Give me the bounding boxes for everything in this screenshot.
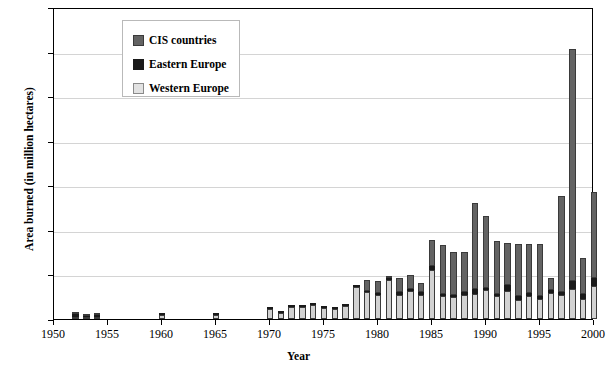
bar: [515, 244, 521, 319]
gridline: [54, 187, 592, 188]
bar: [526, 244, 532, 319]
bar-segment-western-europe: [396, 295, 402, 320]
plot-area: CIS countries Eastern Europe Western Eur…: [53, 8, 593, 320]
gridline: [54, 143, 592, 144]
bar-segment-eastern-europe: [353, 285, 359, 287]
bar-segment-western-europe: [558, 295, 564, 320]
x-tick-label: 1990: [455, 328, 515, 340]
bar-segment-western-europe: [472, 294, 478, 319]
cis-swatch-icon: [133, 35, 144, 46]
x-tick-mark: [485, 320, 486, 325]
bar-segment-cis: [364, 280, 370, 291]
bar-segment-cis: [72, 312, 78, 314]
bar-segment-eastern-europe: [278, 311, 284, 313]
bar-segment-eastern-europe: [375, 293, 381, 295]
bar: [537, 244, 543, 319]
bar-segment-eastern-europe: [213, 313, 219, 315]
bar-segment-eastern-europe: [537, 296, 543, 299]
bar-segment-western-europe: [310, 305, 316, 319]
bar: [591, 192, 597, 319]
bar-segment-eastern-europe: [526, 293, 532, 296]
bar-segment-cis: [461, 252, 467, 292]
bar-segment-eastern-europe: [94, 315, 100, 317]
bar-segment-eastern-europe: [310, 303, 316, 305]
x-tick-label: 1975: [293, 328, 353, 340]
bar-segment-cis: [483, 216, 489, 288]
x-tick-label: 1980: [347, 328, 407, 340]
bar-segment-cis: [429, 240, 435, 267]
bar: [94, 314, 100, 319]
x-axis-title: Year: [0, 350, 597, 362]
x-tick-mark: [107, 320, 108, 325]
bar: [418, 283, 424, 319]
x-tick-label: 1955: [77, 328, 137, 340]
bar-segment-cis: [558, 196, 564, 292]
bar-segment-western-europe: [364, 292, 370, 319]
bar-segment-cis: [580, 258, 586, 294]
bar: [267, 308, 273, 319]
x-tick-label: 1965: [185, 328, 245, 340]
bar-segment-eastern-europe: [429, 266, 435, 270]
bar-segment-western-europe: [440, 296, 446, 319]
bar-segment-western-europe: [450, 297, 456, 319]
x-tick-mark: [269, 320, 270, 325]
legend-label-eastern-europe: Eastern Europe: [149, 58, 226, 70]
bar-segment-eastern-europe: [386, 278, 392, 280]
bar: [569, 49, 575, 319]
bar-segment-western-europe: [515, 300, 521, 319]
bar-segment-eastern-europe: [504, 285, 510, 291]
bar-segment-western-europe: [418, 295, 424, 320]
bar-segment-western-europe: [461, 295, 467, 320]
bar: [159, 315, 165, 319]
bar-segment-western-europe: [375, 295, 381, 319]
bar: [429, 240, 435, 319]
bar-segment-western-europe: [494, 296, 500, 319]
bar-segment-eastern-europe: [332, 307, 338, 309]
bar: [472, 203, 478, 319]
western-europe-swatch-icon: [133, 83, 144, 94]
bar: [450, 252, 456, 319]
bar-segment-western-europe: [591, 286, 597, 319]
bar: [72, 313, 78, 319]
bar: [310, 304, 316, 319]
bar: [494, 241, 500, 319]
bar-segment-western-europe: [386, 280, 392, 319]
bar-segment-cis: [569, 49, 575, 281]
bar-segment-western-europe: [299, 307, 305, 319]
gridline: [54, 232, 592, 233]
bar: [375, 281, 381, 319]
bar-segment-cis: [440, 245, 446, 294]
bar-segment-eastern-europe: [558, 292, 564, 295]
bar-segment-eastern-europe: [396, 292, 402, 295]
x-tick-label: 1970: [239, 328, 299, 340]
bar-segment-western-europe: [504, 291, 510, 319]
bar: [483, 216, 489, 319]
x-tick-label: 1985: [401, 328, 461, 340]
x-tick-mark: [323, 320, 324, 325]
bar: [461, 252, 467, 319]
bar: [504, 243, 510, 319]
legend-item-cis: CIS countries: [133, 28, 239, 52]
bar: [407, 275, 413, 319]
bar-segment-western-europe: [267, 309, 273, 319]
bar-segment-eastern-europe: [418, 292, 424, 295]
bar-segment-western-europe: [353, 287, 359, 319]
bar-segment-cis: [418, 283, 424, 292]
gridline: [54, 276, 592, 277]
bar-segment-western-europe: [526, 296, 532, 319]
bar: [213, 315, 219, 319]
bar-segment-cis: [537, 244, 543, 297]
legend-label-western-europe: Western Europe: [149, 82, 229, 94]
bar-segment-cis: [94, 313, 100, 315]
bar: [342, 305, 348, 319]
bar-segment-cis: [494, 241, 500, 294]
x-tick-mark: [215, 320, 216, 325]
bar-segment-cis: [526, 244, 532, 293]
y-axis-title: Area burned (in million hectares): [23, 44, 35, 294]
bar-segment-eastern-europe: [548, 290, 554, 292]
bar: [440, 245, 446, 319]
legend-label-cis: CIS countries: [149, 34, 216, 46]
bar-segment-western-europe: [83, 317, 89, 319]
bar-segment-western-europe: [94, 317, 100, 319]
